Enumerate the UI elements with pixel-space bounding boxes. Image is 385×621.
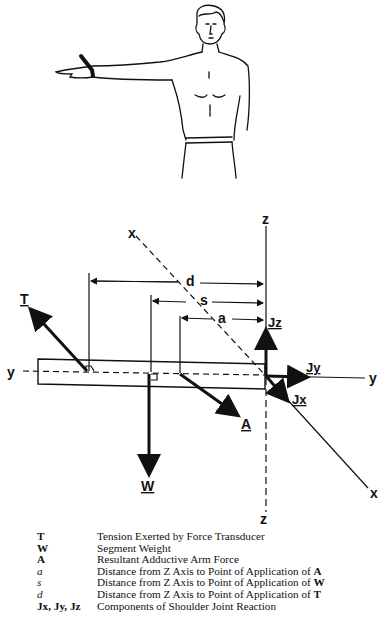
legend-description-suffix: T bbox=[314, 588, 321, 600]
force-vectors bbox=[32, 311, 305, 472]
legend-symbol: d bbox=[37, 589, 97, 601]
legend-symbol: s bbox=[37, 577, 97, 589]
z-axis-label-bottom: z bbox=[260, 511, 267, 527]
y-axis-label-left: y bbox=[7, 364, 15, 380]
force-T-arrow bbox=[32, 311, 87, 371]
force-A-label: A bbox=[241, 416, 251, 432]
legend-symbol: A bbox=[37, 554, 97, 566]
dimension-d-label: d bbox=[186, 273, 195, 289]
force-Jx-arrow bbox=[266, 376, 286, 399]
symbol-legend: TTension Exerted by Force Transducer WSe… bbox=[37, 531, 377, 612]
x-axis-label-top: x bbox=[128, 225, 136, 241]
force-A-arrow bbox=[180, 374, 236, 414]
legend-description-text: Distance from Z Axis to Point of Applica… bbox=[97, 576, 311, 588]
dimension-s-label: s bbox=[200, 292, 208, 308]
force-Jx-label: Jx bbox=[292, 392, 307, 407]
legend-description-suffix: W bbox=[314, 576, 325, 588]
legend-symbol: Jx, Jy, Jz bbox=[37, 601, 97, 613]
y-axis-label-right: y bbox=[369, 370, 377, 386]
z-axis-label-top: z bbox=[262, 211, 269, 227]
legend-symbol: W bbox=[37, 543, 97, 555]
legend-description: Tension Exerted by Force Transducer bbox=[97, 531, 265, 543]
force-Jy-label: Jy bbox=[306, 360, 321, 375]
legend-row: TTension Exerted by Force Transducer bbox=[37, 531, 377, 543]
legend-description-suffix: A bbox=[314, 565, 322, 577]
legend-row: dDistance from Z Axis to Point of Applic… bbox=[37, 589, 377, 601]
force-T-label: T bbox=[20, 291, 29, 307]
legend-description: Components of Shoulder Joint Reaction bbox=[97, 601, 276, 613]
force-Jy-arrow bbox=[266, 376, 305, 377]
force-Jz-label: Jz bbox=[268, 315, 282, 330]
y-axis-dashed bbox=[23, 371, 264, 375]
legend-description-text: Distance from Z Axis to Point of Applica… bbox=[97, 588, 311, 600]
legend-symbol: a bbox=[37, 566, 97, 578]
legend-description-text: Distance from Z Axis to Point of Applica… bbox=[97, 565, 311, 577]
x-axis-label-bottom: x bbox=[370, 485, 378, 501]
human-figure-illustration bbox=[56, 5, 249, 178]
legend-symbol: T bbox=[37, 531, 97, 543]
legend-row: Jx, Jy, JzComponents of Shoulder Joint R… bbox=[37, 601, 377, 613]
free-body-diagram: x x y y z z d s a T W A Jz Jy Jx bbox=[0, 0, 385, 621]
force-W-label: W bbox=[141, 478, 155, 494]
dimension-a-label: a bbox=[218, 310, 226, 326]
legend-description: Distance from Z Axis to Point of Applica… bbox=[97, 589, 321, 601]
